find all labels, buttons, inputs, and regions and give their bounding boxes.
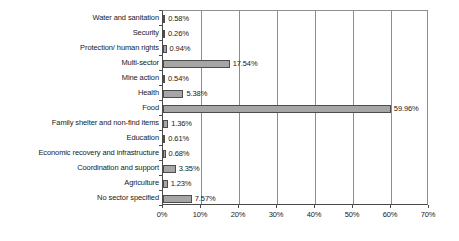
x-axis-tick	[428, 205, 429, 208]
bar-row: 0.61%	[163, 131, 427, 146]
bar-rows: 0.58%0.26%0.94%17.54%0.54%5.38%59.96%1.3…	[163, 11, 427, 204]
bar	[163, 180, 168, 188]
category-label: Economic recovery and infrastructure	[38, 145, 159, 160]
bar-chart: Water and sanitationSecurityProtection/ …	[0, 0, 459, 241]
bar-value-label: 7.57%	[195, 194, 216, 203]
x-axis-tick-label: 30%	[269, 210, 284, 219]
bar-row: 59.96%	[163, 101, 427, 116]
x-axis-tick	[162, 205, 163, 208]
bar-row: 0.54%	[163, 71, 427, 86]
x-axis-tick	[314, 205, 315, 208]
bar-row: 0.58%	[163, 11, 427, 26]
category-label: Multi-sector	[121, 55, 159, 70]
x-axis-tick	[276, 205, 277, 208]
bar-row: 1.23%	[163, 176, 427, 191]
category-label: Health	[138, 85, 159, 100]
bar	[163, 15, 165, 23]
category-label: Protection/ human rights	[80, 40, 159, 55]
x-axis-tick-label: 70%	[421, 210, 436, 219]
bar-value-label: 5.38%	[186, 89, 207, 98]
bar-value-label: 59.96%	[394, 104, 419, 113]
bar-value-label: 1.23%	[171, 179, 192, 188]
category-label: Agriculture	[124, 175, 159, 190]
bar	[163, 30, 165, 38]
bar	[163, 105, 391, 113]
x-axis-ticks	[162, 205, 428, 209]
category-label: Water and sanitation	[92, 10, 159, 25]
bar	[163, 75, 165, 83]
bar-row: 1.36%	[163, 116, 427, 131]
x-axis-tick-label: 50%	[345, 210, 360, 219]
x-axis-tick	[352, 205, 353, 208]
bar	[163, 135, 165, 143]
bar	[163, 165, 176, 173]
bar-value-label: 0.61%	[168, 134, 189, 143]
plot-area: 0.58%0.26%0.94%17.54%0.54%5.38%59.96%1.3…	[162, 10, 428, 205]
bar-value-label: 0.94%	[170, 44, 191, 53]
category-label: Mine action	[122, 70, 159, 85]
x-axis-tick-label: 60%	[383, 210, 398, 219]
category-label: Family shelter and non-find items	[52, 115, 159, 130]
bar-row: 3.35%	[163, 161, 427, 176]
x-axis-tick-label: 20%	[231, 210, 246, 219]
x-axis-tick-label: 40%	[307, 210, 322, 219]
x-axis-tick	[200, 205, 201, 208]
bar-value-label: 1.36%	[171, 119, 192, 128]
bar	[163, 195, 192, 203]
bar-row: 7.57%	[163, 191, 427, 206]
bar	[163, 45, 167, 53]
bar	[163, 120, 168, 128]
category-label: No sector specified	[97, 190, 159, 205]
bar	[163, 150, 166, 158]
bar-value-label: 0.58%	[168, 14, 189, 23]
bar-row: 0.26%	[163, 26, 427, 41]
x-axis-tick-label: 10%	[193, 210, 208, 219]
x-axis-tick	[238, 205, 239, 208]
bar-value-label: 0.68%	[169, 149, 190, 158]
x-axis-labels: 0%10%20%30%40%50%60%70%	[162, 210, 428, 222]
bar-value-label: 0.26%	[168, 29, 189, 38]
x-axis-tick	[390, 205, 391, 208]
bar-value-label: 17.54%	[233, 59, 258, 68]
bar-row: 0.68%	[163, 146, 427, 161]
bar	[163, 60, 230, 68]
category-label: Education	[127, 130, 159, 145]
category-label: Coordination and support	[77, 160, 159, 175]
bar-value-label: 3.35%	[179, 164, 200, 173]
bar	[163, 90, 183, 98]
bar-row: 0.94%	[163, 41, 427, 56]
category-label: Security	[133, 25, 159, 40]
category-label: Food	[142, 100, 159, 115]
bar-value-label: 0.54%	[168, 74, 189, 83]
x-axis-tick-label: 0%	[157, 210, 168, 219]
bar-row: 5.38%	[163, 86, 427, 101]
bar-row: 17.54%	[163, 56, 427, 71]
